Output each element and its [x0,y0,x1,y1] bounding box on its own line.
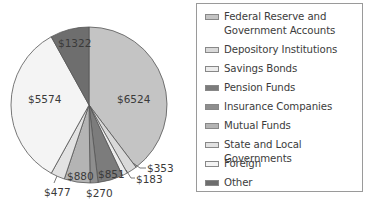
pie-chart: $6524 $353 $183 $851 $270 $880 $477 $557… [0,0,190,207]
pie-label-insurance: $270 [86,187,113,199]
legend-swatch-icon [205,123,219,129]
legend-item-insurance: Insurance Companies [205,100,362,119]
pie-label-savings-bonds: $183 [136,173,163,185]
legend-swatch-icon [205,14,219,20]
legend-swatch-icon [205,180,219,186]
legend-item-depository: Depository Institutions [205,43,362,62]
legend-swatch-icon [205,104,219,110]
legend-item-pension: Pension Funds [205,81,362,100]
legend-item-other: Other [205,176,362,195]
legend-label: Savings Bonds [224,62,362,76]
leader-line-477 [54,176,57,183]
legend-swatch-icon [205,142,219,148]
legend-item-foreign: Foreign [205,157,362,176]
pie-label-other: $1322 [58,37,91,49]
legend-swatch-icon [205,47,219,53]
legend-swatch-icon [205,161,219,167]
pie-label-pension: $851 [98,168,125,180]
legend-item-mutual: Mutual Funds [205,119,362,138]
legend-label: Pension Funds [224,81,362,95]
legend-label: Other [224,176,362,190]
legend-label: Mutual Funds [224,119,362,133]
legend-label: Insurance Companies [224,100,362,114]
legend-swatch-icon [205,85,219,91]
legend-label: Depository Institutions [224,43,362,57]
legend-swatch-icon [205,66,219,72]
pie-label-foreign: $5574 [28,93,62,105]
legend-item-savings-bonds: Savings Bonds [205,62,362,81]
chart-legend: Federal Reserve and Government Accounts … [196,3,363,192]
legend-item-state-local: State and Local Governments [205,138,362,157]
legend-label: Foreign [224,157,362,171]
pie-label-federal-reserve: $6524 [117,93,151,105]
pie-label-state-local: $477 [44,186,71,198]
pie-label-mutual: $880 [67,170,94,182]
legend-item-federal-reserve: Federal Reserve and Government Accounts [205,10,362,43]
legend-label: Federal Reserve and Government Accounts [224,10,362,38]
